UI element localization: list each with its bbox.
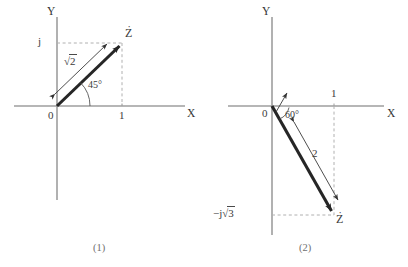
radical-radicand: 2 [69,54,77,67]
panel-2-caption: (2) [299,243,311,254]
x-axis-label: X [187,108,195,120]
phasor-diagram-figure: Y X 0 1 j 45° √2 ˙Z (1) [0,0,408,267]
y-tick-sign: −j [213,207,222,219]
panel-2-canvas [204,0,408,267]
y-axis-label: Y [262,6,270,18]
panel-1-canvas [0,0,204,267]
panel-1: Y X 0 1 j 45° √2 ˙Z (1) [0,0,204,267]
phasor-label-z: ˙Z [125,27,132,39]
radical-radicand: 3 [227,206,235,219]
y-tick-label: j [38,36,41,47]
angle-label: 60° [285,110,299,120]
phasor-dot-accent: ˙ [127,24,131,35]
angle-label: 45° [88,80,102,90]
x-tick-label: 1 [331,88,337,99]
magnitude-measure-arrow [294,122,338,200]
origin-label: 0 [48,110,54,121]
phasor-vector [272,106,332,211]
panel-2: Y X 0 1 60° 2 −j√3 ˙Z (2) [204,0,408,267]
x-axis-label: X [387,108,395,120]
panel-1-caption: (1) [93,243,105,254]
y-axis-label: Y [47,6,55,18]
magnitude-label: √2 [64,56,77,67]
phasor-dot-accent: ˙ [338,210,342,221]
y-tick-label: −j√3 [213,208,235,219]
phasor-label-z: ˙Z [336,213,343,225]
x-tick-label: 1 [119,110,125,121]
magnitude-label: 2 [312,148,318,159]
origin-label: 0 [262,108,268,119]
